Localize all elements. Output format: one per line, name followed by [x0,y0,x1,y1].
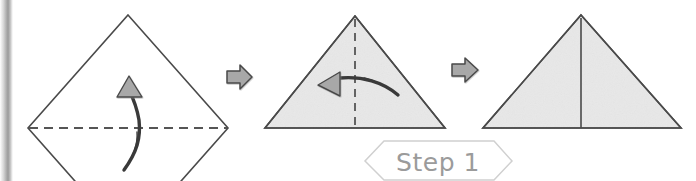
diamond-paper-shape [28,15,228,181]
triangle-paper-shape [483,15,681,128]
transition-1-arrow-figure1-to-figure2 [227,65,252,89]
figure-3-result-triangle [483,15,681,128]
figure-1-unfolded-square-diamond [28,15,228,181]
diagram-canvas: Step 1 [0,0,696,181]
origami-instruction-page: Step 1 [0,0,696,181]
triangle-paper-shape [265,16,445,128]
transition-2-arrow-figure2-to-figure3 [452,58,478,82]
step-banner-label: Step 1 [396,148,480,177]
step-banner: Step 1 [365,141,512,180]
figure-2-folded-triangle [265,16,445,128]
right-arrow-icon [452,58,478,82]
right-arrow-icon [227,65,252,89]
